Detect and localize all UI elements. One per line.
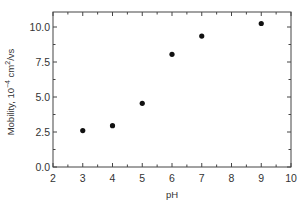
x-tick-label: 5 [139, 172, 145, 184]
y-tick-label: 5.0 [35, 91, 50, 103]
y-tick-label: 0.0 [35, 161, 50, 173]
x-tick-label: 4 [110, 172, 116, 184]
x-tick-label: 9 [258, 172, 264, 184]
x-tick-label: 6 [169, 172, 175, 184]
x-tick-label: 10 [285, 172, 297, 184]
x-axis-label: pH [166, 189, 178, 200]
plot-frame [53, 12, 291, 167]
data-point [199, 34, 204, 39]
x-tick-label: 3 [80, 172, 86, 184]
data-points [80, 21, 264, 133]
axis-ticks [53, 12, 291, 167]
x-tick-label: 8 [229, 172, 235, 184]
y-tick-label: 2.5 [35, 126, 50, 138]
data-point [80, 128, 85, 133]
y-tick-labels: 0.02.55.07.510.0 [30, 21, 51, 173]
data-point [259, 21, 264, 26]
data-point [140, 101, 145, 106]
y-tick-label: 7.5 [35, 56, 50, 68]
data-point [169, 52, 174, 57]
y-tick-label: 10.0 [30, 21, 51, 33]
data-point [110, 123, 115, 128]
x-tick-labels: 2345678910 [50, 172, 297, 184]
x-tick-label: 2 [50, 172, 56, 184]
scatter-chart: 2345678910 0.02.55.07.510.0 pH Mobility,… [0, 0, 308, 208]
x-tick-label: 7 [199, 172, 205, 184]
y-axis-label: Mobility, 10−4 cm2/vs [4, 48, 16, 135]
